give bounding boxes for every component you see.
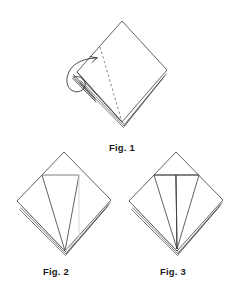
napkin-folding-diagram: Fig. 1 Fig. 2 Fig. 3 [0, 0, 239, 293]
figure-2-caption: Fig. 2 [43, 267, 69, 277]
figure-1-illustration [67, 21, 167, 128]
figure-2-illustration [17, 152, 111, 256]
figure-1-caption: Fig. 1 [109, 143, 135, 153]
fig1-napkin-outline [77, 21, 167, 122]
figure-3-caption: Fig. 3 [160, 267, 186, 277]
figure-3-illustration [129, 152, 223, 256]
